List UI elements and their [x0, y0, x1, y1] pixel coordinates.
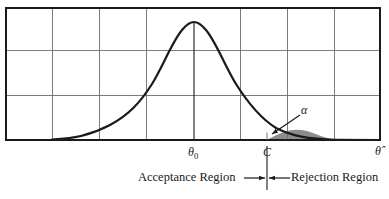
axis-label-theta-hat: θ̂ — [375, 145, 381, 157]
rejection-region-label: Rejection Region — [291, 171, 378, 184]
plot-background — [6, 8, 380, 140]
axis-label-critical-value: C — [263, 146, 271, 158]
axis-label-theta0: θ0 — [188, 146, 198, 161]
theta0-subscript: 0 — [194, 151, 198, 161]
acceptance-region-label: Acceptance Region — [138, 171, 236, 184]
statistics-figure: θ0 C θ̂ α Acceptance Region Rejection Re… — [0, 0, 389, 199]
alpha-label: α — [301, 104, 307, 116]
